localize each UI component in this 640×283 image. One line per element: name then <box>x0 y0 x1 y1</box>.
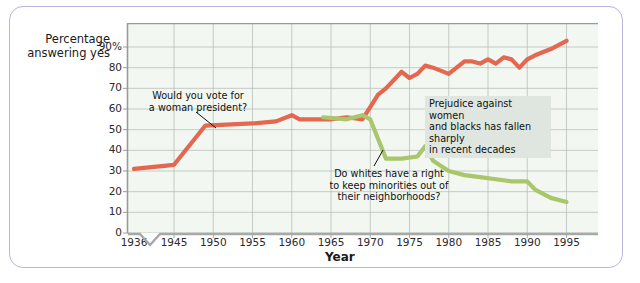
annotation-line: Do whites have a right <box>325 168 453 180</box>
x-tick-label: 1970 <box>350 236 390 248</box>
x-tick-label: 1995 <box>547 236 587 248</box>
x-tick-label: 1975 <box>390 236 430 248</box>
y-tick-label: 90% <box>94 40 122 52</box>
y-tick-label: 50 <box>94 123 122 135</box>
chart-figure: Percentage answering yes 010203040506070… <box>0 0 640 283</box>
y-tick-label: 60 <box>94 102 122 114</box>
x-tick-label: 1955 <box>233 236 273 248</box>
annotation-women-president: Would you vote for a woman president? <box>139 90 257 113</box>
annotation-line: to keep minorities out of <box>325 180 453 192</box>
y-tick-label: 70 <box>94 81 122 93</box>
y-tick-label: 40 <box>94 143 122 155</box>
x-tick-label: 1980 <box>429 236 469 248</box>
annotation-line: a woman president? <box>139 102 257 114</box>
annotation-line: Would you vote for <box>139 90 257 102</box>
annotation-line: Prejudice against women <box>429 98 547 121</box>
x-axis-label: Year <box>325 250 355 264</box>
y-tick-label: 30 <box>94 164 122 176</box>
annotation-line: their neighborhoods? <box>325 191 453 203</box>
x-tick-label: 1936 <box>114 236 154 248</box>
annotation-line: and blacks has fallen sharply <box>429 121 547 144</box>
y-tick-label: 80 <box>94 61 122 73</box>
annotation-prejudice-summary: Prejudice against women and blacks has f… <box>425 96 551 158</box>
x-tick-label: 1950 <box>193 236 233 248</box>
x-tick-label: 1960 <box>272 236 312 248</box>
x-tick-label: 1990 <box>507 236 547 248</box>
annotation-white-neighborhoods: Do whites have a right to keep minoritie… <box>325 168 453 203</box>
y-tick-label: 20 <box>94 185 122 197</box>
annotation-line: in recent decades <box>429 144 547 156</box>
x-tick-label: 1945 <box>154 236 194 248</box>
x-tick-label: 1985 <box>468 236 508 248</box>
x-tick-label: 1965 <box>311 236 351 248</box>
y-tick-label: 10 <box>94 205 122 217</box>
